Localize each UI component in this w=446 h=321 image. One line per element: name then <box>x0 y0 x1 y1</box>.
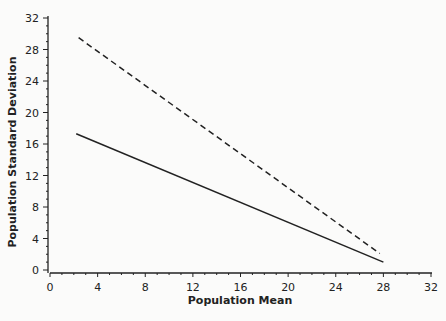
y-tick-label: 32 <box>25 12 39 25</box>
chart: 048121620242832048121620242832 Populatio… <box>0 0 446 321</box>
y-tick-label: 20 <box>25 107 39 120</box>
x-tick-label: 8 <box>142 281 149 294</box>
x-tick-label: 4 <box>94 281 101 294</box>
x-tick-label: 20 <box>281 281 295 294</box>
x-tick-label: 28 <box>376 281 390 294</box>
y-tick-label: 4 <box>32 233 39 246</box>
x-tick-label: 32 <box>424 281 438 294</box>
y-axis-title: Population Standard Deviation <box>6 57 19 248</box>
y-tick-label: 16 <box>25 138 39 151</box>
y-tick-label: 8 <box>32 201 39 214</box>
y-tick-label: 28 <box>25 44 39 57</box>
y-tick-label: 24 <box>25 75 39 88</box>
x-axis-title: Population Mean <box>188 294 292 307</box>
x-tick-label: 12 <box>186 281 200 294</box>
x-tick-label: 24 <box>329 281 343 294</box>
y-tick-label: 12 <box>25 170 39 183</box>
x-tick-label: 16 <box>234 281 248 294</box>
x-tick-label: 0 <box>47 281 54 294</box>
y-tick-label: 0 <box>32 264 39 277</box>
